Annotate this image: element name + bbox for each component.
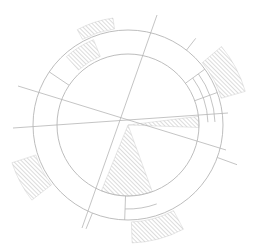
ring-band-upper-left (49, 72, 69, 85)
hatch-left-outer (12, 155, 52, 200)
ring-band-bottom (125, 196, 126, 220)
hatch-top-outer (77, 18, 114, 39)
arc-bottom-inner (125, 204, 157, 209)
diagram-canvas (0, 0, 260, 244)
tick-top-right (186, 38, 195, 50)
hatch-right-sliver (128, 116, 199, 127)
hatch-upper-left-ring (66, 40, 100, 70)
ring-band-right-2 (195, 93, 218, 101)
circular-diagram (0, 0, 260, 244)
hatch-center-sector (101, 125, 152, 196)
tick-right-lower (217, 157, 237, 164)
tick-bottom-left (86, 213, 92, 229)
hatch-right-outer (202, 47, 245, 99)
